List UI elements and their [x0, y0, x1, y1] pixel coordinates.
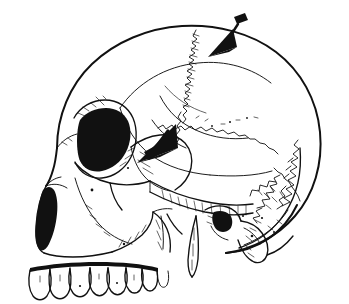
- skull-illustration: [0, 0, 349, 304]
- figure-background: [0, 0, 349, 304]
- skull-figure: [0, 0, 349, 304]
